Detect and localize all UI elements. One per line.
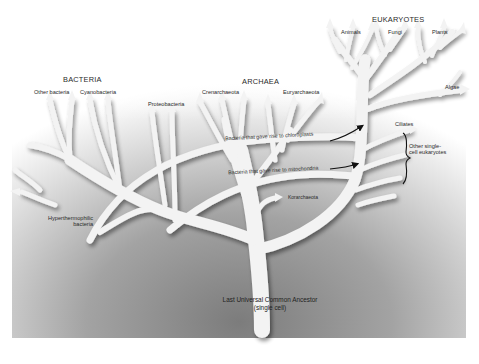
root-label-luca: Last Universal Common Ancestor (single c… (210, 296, 330, 311)
leaf-label-algae: Algae (445, 84, 459, 90)
leaf-label-other-single-cell-eukaryotes: Other single- cell eukaryotes (409, 143, 446, 156)
leaf-label-korarchaeota: Korarchaeota (288, 195, 318, 201)
group-label-eukaryotes: EUKARYOTES (372, 15, 424, 24)
leaf-label-plants: Plants (432, 29, 448, 35)
group-label-bacteria: BACTERIA (63, 75, 102, 84)
leaf-label-hyperthermophilic-bacteria: Hyperthermophilic bacteria (48, 215, 93, 228)
leaf-label-animals: Animals (341, 29, 361, 35)
tree-of-life-diagram: BACTERIA ARCHAEA EUKARYOTES Other bacter… (0, 0, 479, 364)
leaf-label-crenarchaeota: Crenarchaeota (202, 89, 239, 95)
leaf-label-euryarchaeota: Euryarchaeota (283, 89, 319, 95)
leaf-label-cyanobacteria: Cyanobacteria (80, 89, 116, 95)
leaf-label-ciliates: Ciliates (395, 121, 413, 127)
leaf-label-fungi: Fungi (388, 29, 402, 35)
leaf-label-proteobacteria: Proteobacteria (148, 101, 184, 107)
group-label-archaea: ARCHAEA (242, 77, 279, 86)
leaf-label-other-bacteria: Other bacteria (34, 89, 69, 95)
